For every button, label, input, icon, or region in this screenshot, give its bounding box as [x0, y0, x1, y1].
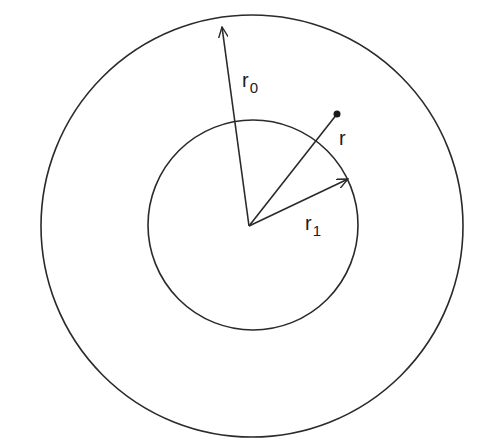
- r-line: [249, 114, 337, 226]
- inner-circle: [148, 120, 358, 330]
- point-dot: [334, 111, 341, 118]
- r-label: r: [339, 127, 346, 149]
- r0-label: r0: [242, 69, 258, 96]
- r1-label: r1: [305, 212, 321, 239]
- r1-arrow: [249, 179, 348, 226]
- annulus-diagram: r0 r r1: [0, 0, 487, 441]
- r0-arrow: [222, 27, 249, 226]
